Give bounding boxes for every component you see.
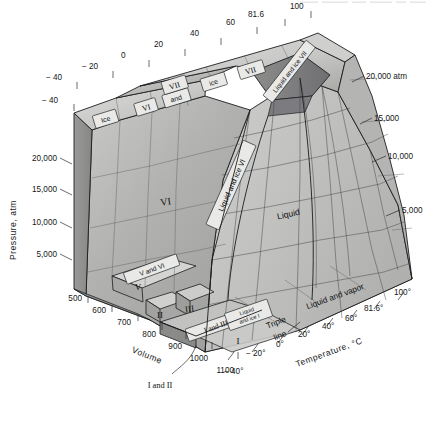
region-label-i: I	[237, 336, 240, 346]
diagram-canvas: − 40 − 20 0 20 40 60 81.6 100 Pressure, …	[0, 0, 428, 427]
pressure-right-tick-0: 20,000 atm	[366, 72, 407, 81]
pvt-diagram-figure: − 40 − 20 0 20 40 60 81.6 100 Pressure, …	[0, 0, 428, 427]
temp-top-tick-1: − 20	[82, 62, 99, 71]
pvt-surface-body	[74, 33, 412, 352]
pressure-tick-0: 20,000	[32, 154, 57, 163]
pressure-tick-3: 5,000	[37, 250, 58, 259]
temp-bottom-tick-4: 40°	[322, 322, 334, 331]
pressure-right-tick-1: 15,000	[374, 114, 399, 123]
temp-corner-m40: − 40	[42, 96, 59, 105]
volume-tick-0: 500	[68, 294, 82, 303]
region-label-iii: III	[184, 303, 194, 314]
temp-top-tick-3: 20	[154, 40, 164, 49]
region-label-v: V	[135, 282, 142, 292]
temp-top-tick-4: 40	[190, 29, 200, 38]
axis-pressure-left: Pressure, atm 20,000 15,000 10,000 5,000…	[8, 96, 74, 260]
volume-tick-2: 700	[117, 318, 131, 327]
pressure-right-tick-3: 5,000	[402, 206, 423, 215]
temp-top-tick-6: 81.6	[248, 10, 264, 19]
volume-tick-5: 1000	[190, 354, 209, 363]
region-label-ii: II	[157, 310, 163, 320]
temp-bottom-tick-6: 81.6°	[364, 304, 383, 313]
volume-tick-4: 900	[168, 342, 182, 351]
pressure-tick-1: 15,000	[32, 185, 57, 194]
volume-tick-3: 800	[142, 330, 156, 339]
pressure-axis-title: Pressure, atm	[8, 200, 18, 260]
temperature-axis-title: Temperature, °C	[294, 335, 363, 368]
temp-bottom-tick-1: − 20°	[246, 349, 265, 358]
volume-axis-title: Volume	[131, 345, 164, 366]
temp-bottom-tick-0: − 40°	[224, 367, 243, 376]
temp-bottom-tick-3: 20°	[298, 330, 310, 339]
pressure-tick-2: 10,000	[32, 218, 57, 227]
temp-top-tick-5: 60	[226, 18, 236, 27]
temp-bottom-tick-5: 60°	[345, 314, 357, 323]
region-label-vi: VI	[160, 195, 172, 207]
temp-top-tick-0: − 40	[46, 73, 63, 82]
temp-top-tick-2: 0	[121, 51, 126, 60]
top-edge-artifact	[300, 2, 426, 3]
temp-top-tick-7: 100	[290, 2, 304, 11]
region-label-i-and-ii: I and II	[148, 381, 173, 390]
pressure-right-tick-2: 10,000	[388, 152, 413, 161]
volume-tick-1: 600	[92, 306, 106, 315]
temp-bottom-tick-7: 100°	[394, 288, 411, 297]
